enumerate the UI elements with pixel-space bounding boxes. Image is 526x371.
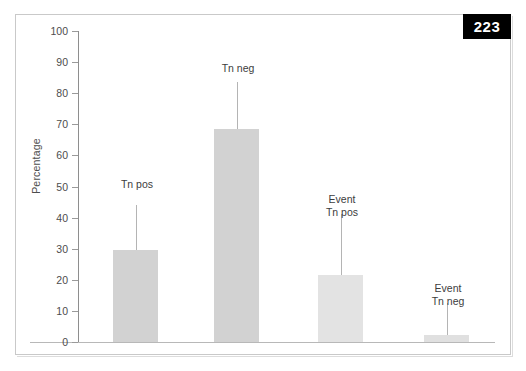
y-tick-mark [72,31,78,32]
y-tick-label: 10 [28,306,68,317]
y-tick-label: 30 [28,244,68,255]
bar-4[interactable] [424,335,469,342]
y-tick-mark [72,124,78,125]
y-tick-label: 20 [28,275,68,286]
y-tick-label: 100 [28,26,68,37]
bar-label-1: Tn pos [102,178,172,191]
y-tick-mark [72,280,78,281]
error-bar [136,205,137,250]
y-tick-mark [72,187,78,188]
bar-3[interactable] [318,275,363,342]
y-tick-label: 60 [28,150,68,161]
y-tick-mark [72,342,78,343]
y-tick-mark [72,249,78,250]
y-tick-mark [72,218,78,219]
y-tick-label: 0 [28,337,68,348]
bar-label-3: Event Tn pos [307,193,377,219]
bar-label-4: Event Tn neg [413,282,483,308]
bar-chart-plot: Percentage 1009080706050403020100 Tn pos… [0,0,526,371]
y-tick-label: 40 [28,213,68,224]
y-tick-mark [72,93,78,94]
figure-panel: 223 Percentage 1009080706050403020100 Tn… [0,0,526,371]
y-axis-line [78,31,79,342]
bar-label-2: Tn neg [203,62,273,75]
y-tick-label: 80 [28,88,68,99]
error-bar [341,214,342,274]
bar-1[interactable] [113,250,158,342]
y-tick-mark [72,155,78,156]
error-bar [237,82,238,129]
y-tick-label: 70 [28,119,68,130]
x-axis-line [30,342,495,343]
y-axis-title: Percentage [30,121,42,211]
y-tick-mark [72,62,78,63]
y-tick-label: 50 [28,182,68,193]
y-tick-mark [72,311,78,312]
bar-2[interactable] [214,129,259,342]
y-tick-label: 90 [28,57,68,68]
